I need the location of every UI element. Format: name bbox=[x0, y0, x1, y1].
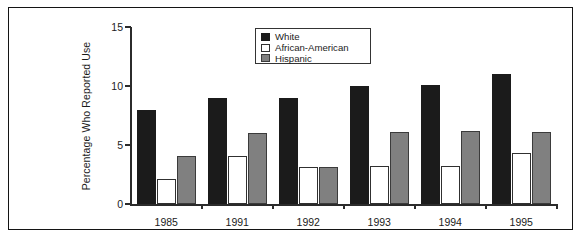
legend-swatch-icon bbox=[261, 33, 270, 41]
legend-label: Hispanic bbox=[275, 54, 312, 64]
bar bbox=[208, 98, 227, 204]
bar bbox=[350, 86, 369, 204]
legend-item[interactable]: African-American bbox=[261, 42, 366, 52]
bar bbox=[299, 167, 318, 204]
x-tick-label: 1992 bbox=[297, 217, 320, 228]
bar bbox=[228, 156, 247, 204]
bar bbox=[390, 132, 409, 204]
chart-legend: WhiteAfrican-AmericanHispanic bbox=[255, 28, 371, 64]
legend-label: White bbox=[275, 32, 300, 42]
x-tick-label: 1995 bbox=[510, 217, 533, 228]
x-tick-label: 1991 bbox=[226, 217, 249, 228]
legend-swatch-icon bbox=[261, 54, 270, 62]
y-tick-label: 5 bbox=[117, 140, 123, 151]
chart-figure: Percentage Who Reported Use 051015 19851… bbox=[0, 0, 583, 240]
bar bbox=[492, 74, 511, 204]
bar bbox=[248, 133, 267, 204]
bar bbox=[421, 85, 440, 204]
y-tick-label: 0 bbox=[117, 199, 123, 210]
y-tick-label: 10 bbox=[111, 81, 123, 92]
x-tick-label: 1993 bbox=[368, 217, 391, 228]
x-tick-mark bbox=[485, 204, 487, 209]
x-tick-label: 1985 bbox=[155, 217, 178, 228]
x-tick-label: 1994 bbox=[439, 217, 462, 228]
bar bbox=[177, 156, 196, 204]
legend-swatch-icon bbox=[261, 44, 270, 52]
y-axis-title-text: Percentage Who Reported Use bbox=[80, 41, 92, 190]
y-axis-title: Percentage Who Reported Use bbox=[78, 27, 94, 204]
bar bbox=[532, 132, 551, 204]
bar bbox=[319, 167, 338, 204]
x-tick-mark bbox=[414, 204, 416, 209]
bar bbox=[461, 131, 480, 204]
legend-label: African-American bbox=[275, 43, 349, 53]
bar bbox=[512, 153, 531, 204]
x-tick-mark bbox=[272, 204, 274, 209]
legend-item[interactable]: Hispanic bbox=[261, 53, 366, 63]
bar bbox=[137, 110, 156, 204]
x-tick-mark bbox=[343, 204, 345, 209]
bar bbox=[370, 166, 389, 204]
y-tick-label: 15 bbox=[111, 22, 123, 33]
x-tick-mark bbox=[201, 204, 203, 209]
bar bbox=[279, 98, 298, 204]
x-tick-mark bbox=[556, 204, 558, 209]
bar bbox=[157, 179, 176, 204]
bar bbox=[441, 166, 460, 204]
legend-item[interactable]: White bbox=[261, 32, 366, 42]
